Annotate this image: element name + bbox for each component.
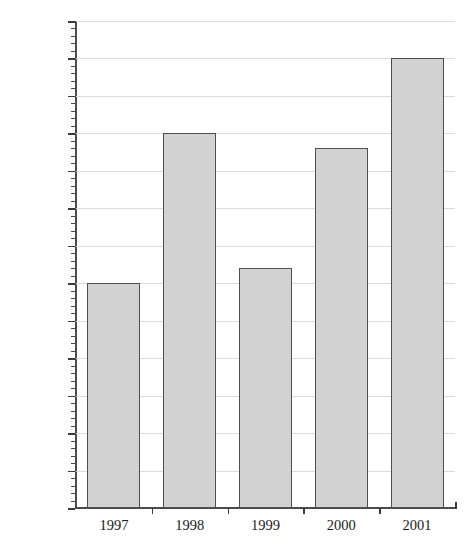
x-axis-tick-label: 2001 <box>377 518 457 533</box>
bar <box>163 133 216 508</box>
y-axis-tick <box>68 208 75 210</box>
x-axis-tick-label: 2000 <box>301 518 381 533</box>
y-axis-minor-tick <box>71 426 75 427</box>
y-axis-minor-tick <box>71 441 75 442</box>
y-axis-minor-tick <box>71 351 75 352</box>
y-axis-minor-tick <box>71 493 75 494</box>
y-axis-minor-tick <box>71 223 75 224</box>
y-axis-minor-tick <box>71 51 75 52</box>
y-axis-minor-tick <box>71 456 75 457</box>
y-axis-minor-tick <box>71 178 75 179</box>
y-axis-minor-tick <box>71 141 75 142</box>
y-axis-minor-tick <box>71 411 75 412</box>
y-axis-tick <box>68 171 75 173</box>
y-axis-minor-tick <box>71 118 75 119</box>
bar <box>391 58 444 508</box>
y-axis-tick <box>68 133 75 135</box>
y-axis-tick <box>68 471 75 473</box>
y-axis-minor-tick <box>71 388 75 389</box>
y-axis-minor-tick <box>71 186 75 187</box>
y-axis-minor-tick <box>71 343 75 344</box>
x-axis-end-tick <box>455 502 457 509</box>
y-axis-minor-tick <box>71 88 75 89</box>
y-axis-minor-tick <box>71 201 75 202</box>
y-axis-minor-tick <box>71 306 75 307</box>
y-axis-minor-tick <box>71 501 75 502</box>
y-axis-minor-tick <box>71 448 75 449</box>
x-axis-tick-label: 1997 <box>74 518 154 533</box>
y-axis-tick <box>68 508 75 510</box>
y-axis-minor-tick <box>71 28 75 29</box>
y-axis-minor-tick <box>71 238 75 239</box>
y-axis-minor-tick <box>71 373 75 374</box>
y-axis-minor-tick <box>71 403 75 404</box>
y-axis-minor-tick <box>71 478 75 479</box>
y-axis-minor-tick <box>71 313 75 314</box>
y-axis-minor-tick <box>71 163 75 164</box>
y-axis-tick <box>68 58 75 60</box>
y-axis-minor-tick <box>71 298 75 299</box>
y-axis-minor-tick <box>71 66 75 67</box>
x-axis-tick <box>303 508 305 514</box>
y-axis-minor-tick <box>71 261 75 262</box>
y-axis-minor-tick <box>71 111 75 112</box>
x-axis-tick-label: 1998 <box>150 518 230 533</box>
bar <box>315 148 368 508</box>
y-axis-minor-tick <box>71 43 75 44</box>
y-axis-minor-tick <box>71 381 75 382</box>
x-axis-tick <box>228 508 230 514</box>
y-axis-minor-tick <box>71 486 75 487</box>
y-axis-minor-tick <box>71 291 75 292</box>
y-axis-minor-tick <box>71 148 75 149</box>
y-axis-minor-tick <box>71 193 75 194</box>
y-axis-minor-tick <box>71 126 75 127</box>
y-axis-tick <box>68 321 75 323</box>
y-axis-tick <box>68 96 75 98</box>
y-axis-tick <box>68 358 75 360</box>
y-axis-tick <box>68 433 75 435</box>
y-axis-title: Number of cookies <box>0 0 30 553</box>
bar-chart: Number of cookies 0501001502002503003504… <box>0 0 470 553</box>
y-axis-minor-tick <box>71 253 75 254</box>
y-axis-minor-tick <box>71 36 75 37</box>
y-axis-minor-tick <box>71 216 75 217</box>
x-axis-tick <box>152 508 154 514</box>
y-axis-minor-tick <box>71 73 75 74</box>
y-axis-minor-tick <box>71 336 75 337</box>
y-axis-tick <box>68 21 75 23</box>
y-axis-tick <box>68 246 75 248</box>
y-axis-minor-tick <box>71 418 75 419</box>
y-axis-tick <box>68 396 75 398</box>
y-axis-minor-tick <box>71 103 75 104</box>
y-axis-tick <box>68 283 75 285</box>
bar <box>87 283 140 508</box>
y-axis-minor-tick <box>71 366 75 367</box>
y-axis-minor-tick <box>71 463 75 464</box>
x-axis-tick <box>379 508 381 514</box>
grid-line <box>76 21 455 22</box>
y-axis-minor-tick <box>71 231 75 232</box>
y-axis-minor-tick <box>71 268 75 269</box>
y-axis-minor-tick <box>71 156 75 157</box>
bar <box>239 268 292 508</box>
y-axis-minor-tick <box>71 328 75 329</box>
y-axis-minor-tick <box>71 276 75 277</box>
x-axis-tick-label: 1999 <box>226 518 306 533</box>
y-axis-minor-tick <box>71 81 75 82</box>
